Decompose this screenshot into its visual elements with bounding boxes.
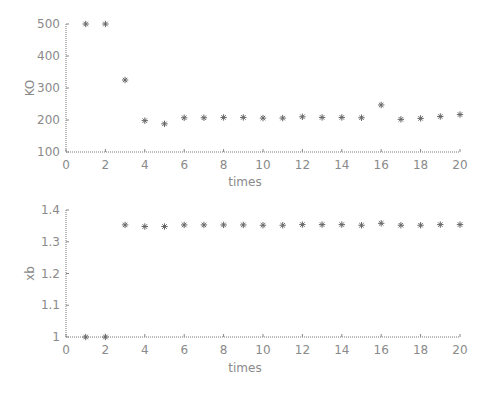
data-point — [102, 334, 108, 340]
x-tick-label: 6 — [180, 158, 188, 172]
x-tick-label: 20 — [452, 343, 467, 357]
x-tick-label: 8 — [220, 158, 228, 172]
data-point — [398, 222, 404, 228]
x-tick-label: 16 — [374, 158, 389, 172]
y-tick-label: 500 — [37, 17, 60, 31]
data-point — [319, 114, 325, 120]
data-point — [417, 222, 423, 228]
data-point — [240, 114, 246, 120]
data-point — [220, 114, 226, 120]
data-point — [319, 221, 325, 227]
y-tick-label: 300 — [37, 81, 60, 95]
y-axis-label: xb — [23, 266, 37, 281]
subplot-KO: 02468101214161820100200300400500timesKO — [23, 17, 468, 189]
data-point — [220, 222, 226, 228]
data-point — [201, 222, 207, 228]
data-point — [161, 121, 167, 127]
y-tick-label: 400 — [37, 49, 60, 63]
data-point — [83, 21, 89, 27]
data-point — [260, 115, 266, 121]
y-axis-label: KO — [23, 80, 37, 97]
data-point — [240, 222, 246, 228]
y-tick-label: 1.2 — [41, 267, 60, 281]
data-point — [201, 115, 207, 121]
data-point — [299, 221, 305, 227]
x-tick-label: 12 — [295, 158, 310, 172]
data-point — [417, 115, 423, 121]
data-point — [299, 114, 305, 120]
data-point — [122, 222, 128, 228]
chart-figure: 02468101214161820100200300400500timesKO0… — [0, 0, 490, 393]
y-tick-label: 1.1 — [41, 298, 60, 312]
x-axis-label: times — [228, 175, 261, 189]
x-tick-label: 8 — [220, 343, 228, 357]
data-point — [378, 102, 384, 108]
data-point — [260, 222, 266, 228]
x-tick-label: 12 — [295, 343, 310, 357]
x-tick-label: 14 — [334, 158, 349, 172]
y-tick-label: 200 — [37, 113, 60, 127]
data-point — [457, 111, 463, 117]
data-point — [398, 116, 404, 122]
data-point — [280, 115, 286, 121]
x-tick-label: 2 — [102, 343, 110, 357]
subplot-xb: 0246810121416182011.11.21.31.4timesxb — [23, 203, 468, 375]
x-tick-label: 4 — [141, 343, 149, 357]
x-axis-label: times — [228, 361, 261, 375]
y-tick-label: 100 — [37, 145, 60, 159]
data-point — [280, 222, 286, 228]
data-point — [358, 222, 364, 228]
data-point — [161, 223, 167, 229]
data-point — [181, 115, 187, 121]
data-point — [339, 114, 345, 120]
data-point — [181, 222, 187, 228]
data-point — [142, 117, 148, 123]
data-point — [102, 21, 108, 27]
data-point — [457, 221, 463, 227]
x-tick-label: 0 — [62, 343, 70, 357]
data-point — [339, 221, 345, 227]
y-tick-label: 1 — [52, 330, 60, 344]
data-point — [83, 334, 89, 340]
x-tick-label: 4 — [141, 158, 149, 172]
x-tick-label: 14 — [334, 343, 349, 357]
x-tick-label: 6 — [180, 343, 188, 357]
data-point — [378, 220, 384, 226]
x-tick-label: 18 — [413, 158, 428, 172]
data-point — [122, 77, 128, 83]
x-tick-label: 10 — [255, 158, 270, 172]
data-point — [142, 223, 148, 229]
x-tick-label: 16 — [374, 343, 389, 357]
data-point — [437, 113, 443, 119]
x-tick-label: 10 — [255, 343, 270, 357]
data-point — [437, 221, 443, 227]
y-tick-label: 1.4 — [41, 203, 60, 217]
x-tick-label: 0 — [62, 158, 70, 172]
y-tick-label: 1.3 — [41, 235, 60, 249]
x-tick-label: 20 — [452, 158, 467, 172]
x-tick-label: 18 — [413, 343, 428, 357]
data-point — [358, 115, 364, 121]
x-tick-label: 2 — [102, 158, 110, 172]
